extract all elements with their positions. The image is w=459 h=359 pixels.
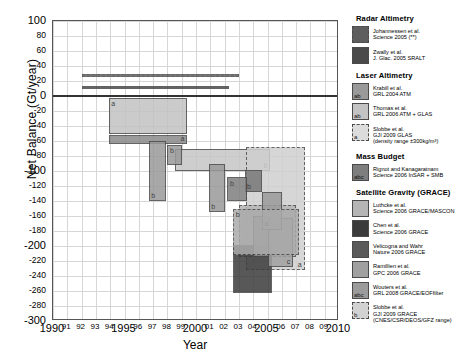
legend-entry-line: Science 2006 GRACE — [373, 229, 428, 235]
data-box: a — [109, 98, 188, 134]
legend-entry: abKrabill et al.GRL 2004 ATM — [352, 83, 459, 100]
legend-entry-label: Thomas et al.GRL 2006 ATM + GLAS — [373, 103, 432, 118]
legend-section-title: Mass Budget — [356, 152, 459, 161]
legend-entry: Johannessen et al.Science 2005 (**) — [352, 26, 459, 43]
legend-swatch: ab — [352, 83, 369, 100]
legend-swatch — [352, 261, 369, 278]
legend-swatch: abc — [352, 164, 369, 181]
gridline-horizontal — [53, 306, 337, 307]
legend-entry-line: GRL 2008 GRACE/EOFfilter — [373, 290, 443, 296]
legend-swatch-tag: ab — [354, 93, 361, 99]
legend-swatch-tag: abc — [354, 292, 364, 298]
legend-entry-label: Wouters et al.GRL 2008 GRACE/EOFfilter — [373, 282, 443, 297]
plot-area: ababbbabbaccab — [52, 20, 338, 320]
legend-swatch — [352, 241, 369, 258]
y-tick-label: 40 — [6, 61, 46, 69]
y-tick-label: -140 — [6, 196, 46, 204]
legend-entry-line: GRL 2004 ATM — [373, 91, 411, 97]
gridline-horizontal — [53, 21, 337, 22]
y-tick-label: 20 — [6, 76, 46, 84]
y-tick-label: -240 — [6, 271, 46, 279]
data-box: b — [149, 141, 166, 201]
data-box-tag: b — [247, 183, 251, 190]
legend-entry: abcRignot and KanagaratnamScience 2006 I… — [352, 164, 459, 181]
y-tick-label: -220 — [6, 256, 46, 264]
legend-swatch: ab — [352, 103, 369, 120]
legend-entry: Zwally et al.J. Glac. 2005 SRALT — [352, 47, 459, 64]
y-tick-label: -200 — [6, 240, 46, 250]
gridline-horizontal — [53, 66, 337, 67]
legend-swatch — [352, 220, 369, 237]
data-box: b — [227, 177, 247, 201]
legend-entry: abThomas et al.GRL 2006 ATM + GLAS — [352, 103, 459, 120]
data-box: b — [209, 164, 225, 213]
legend-swatch: a — [352, 124, 369, 141]
legend-entry-label: Luthcke et al.Science 2006 GRACE/MASCON — [373, 200, 454, 215]
chart-page: Net Balance (Gt/year) Year 100806040200-… — [0, 0, 459, 359]
gridline-horizontal — [53, 111, 337, 112]
data-box-tag: b — [230, 180, 234, 187]
data-box-tag: a — [298, 261, 302, 268]
legend-entry-label: Krabill et al.GRL 2004 ATM — [373, 83, 411, 98]
legend: Radar AltimetryJohannessen et al.Science… — [352, 14, 459, 327]
y-tick-label: -80 — [6, 151, 46, 159]
legend-entry-line: GPC 2006 GRACE — [373, 270, 421, 276]
legend-entry: bSlobbe et al.GJI 2009 GRACE(CNES/CSR/DE… — [352, 302, 459, 323]
y-tick-label: -120 — [6, 181, 46, 189]
y-tick-label: 60 — [6, 46, 46, 54]
legend-section-title: Radar Altimetry — [356, 14, 459, 23]
y-tick-label: 0 — [6, 90, 46, 100]
legend-entry-label: Johannessen et al.Science 2005 (**) — [373, 26, 420, 41]
legend-entry-line: (density range ±300kg/m³) — [373, 138, 438, 144]
y-tick-label: -100 — [6, 165, 46, 175]
gridline-horizontal — [53, 81, 337, 82]
gridline-horizontal — [53, 36, 337, 37]
legend-entry-label: Zwally et al.J. Glac. 2005 SRALT — [373, 47, 425, 62]
y-tick-label: -260 — [6, 286, 46, 294]
legend-swatch — [352, 47, 369, 64]
data-box-tag: b — [170, 147, 174, 154]
data-box: b — [167, 145, 181, 165]
legend-entry: Velicogna and WahrNature 2006 GRACE — [352, 241, 459, 258]
gridline-horizontal — [53, 276, 337, 277]
legend-entry: Chen et al.Science 2006 GRACE — [352, 220, 459, 237]
gridline-horizontal — [53, 126, 337, 127]
data-box-tag: b — [151, 192, 155, 199]
legend-swatch: b — [352, 302, 369, 319]
gridline-horizontal — [53, 291, 337, 292]
legend-entry-label: Ramillien et al.GPC 2006 GRACE — [373, 261, 421, 276]
legend-entry-line: Science 2006 GRACE/MASCON — [373, 208, 454, 214]
y-tick-label: -180 — [6, 226, 46, 234]
y-tick-label: -60 — [6, 136, 46, 144]
data-box-tag: a — [111, 100, 115, 107]
data-box-tag: a — [181, 135, 185, 142]
gridline-horizontal — [53, 141, 337, 142]
legend-entry-label: Chen et al.Science 2006 GRACE — [373, 220, 428, 235]
legend-entry-line: J. Glac. 2005 SRALT — [373, 55, 425, 61]
legend-swatch-tag: abc — [354, 174, 364, 180]
data-box — [82, 86, 229, 89]
legend-entry-line: GRL 2006 ATM + GLAS — [373, 111, 432, 117]
data-box: b — [233, 209, 299, 256]
y-tick-label: 80 — [6, 31, 46, 39]
legend-entry: aSlobbe et al.GJI 2009 GLAS(density rang… — [352, 124, 459, 145]
y-tick-label: -160 — [6, 211, 46, 219]
legend-entry-label: Rignot and KanagaratnamScience 2006 InSA… — [373, 164, 443, 179]
legend-entry-label: Slobbe et al.GJI 2009 GRACE(CNES/CSR/DEO… — [373, 302, 452, 323]
legend-swatch — [352, 200, 369, 217]
data-box-tag: b — [211, 203, 215, 210]
legend-swatch — [352, 26, 369, 43]
legend-entry: abcWouters et al.GRL 2008 GRACE/EOFfilte… — [352, 282, 459, 299]
y-tick-label: -40 — [6, 121, 46, 129]
legend-entry-line: Science 2005 (**) — [373, 34, 420, 40]
legend-entry-label: Slobbe et al.GJI 2009 GLAS(density range… — [373, 124, 438, 145]
legend-entry-line: Science 2006 InSAR + SMB — [373, 172, 443, 178]
legend-entry-label: Velicogna and WahrNature 2006 GRACE — [373, 241, 425, 256]
legend-swatch-tag: b — [354, 312, 357, 318]
x-axis-title: Year — [52, 338, 338, 352]
legend-swatch-tag: ab — [354, 113, 361, 119]
y-tick-label: -20 — [6, 106, 46, 114]
legend-entry-line: (CNES/CSR/DEOS/GFZ range) — [373, 317, 452, 323]
legend-section-title: Satellite Gravity (GRACE) — [356, 188, 459, 197]
legend-entry-line: Nature 2006 GRACE — [373, 249, 425, 255]
